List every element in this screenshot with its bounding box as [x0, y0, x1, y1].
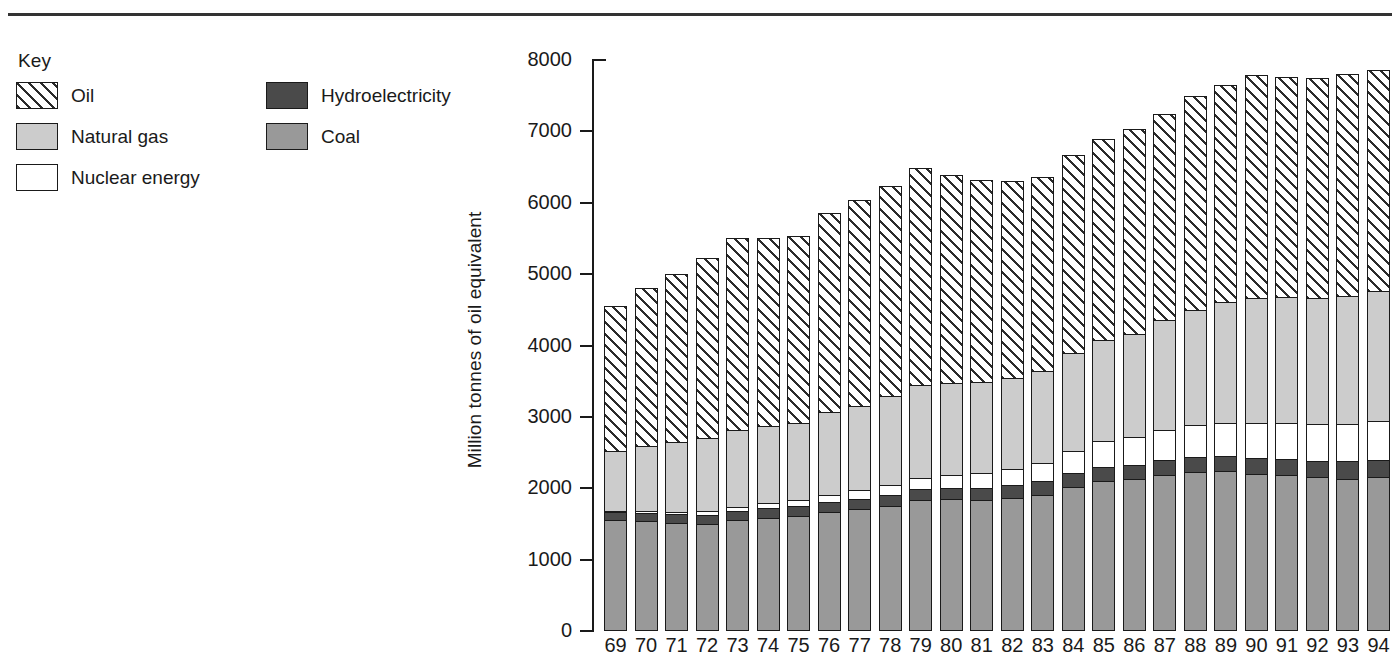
bar-segment-oil: [971, 181, 992, 382]
bar-segment-gas: [971, 382, 992, 473]
bar-segment-gas: [636, 446, 657, 511]
bar-segment-nuclear: [1002, 469, 1023, 485]
bar-segment-nuclear: [819, 495, 840, 502]
bar-segment-gas: [1124, 334, 1145, 436]
bar-segment-hydro: [1246, 458, 1267, 474]
bar-94[interactable]: [1367, 70, 1390, 631]
bar-segment-gas: [880, 396, 901, 485]
bar-89[interactable]: [1214, 85, 1237, 631]
bar-76[interactable]: [818, 213, 841, 631]
bar-segment-oil: [697, 259, 718, 438]
bar-segment-coal: [636, 521, 657, 630]
bar-segment-nuclear: [941, 475, 962, 487]
bar-90[interactable]: [1245, 75, 1268, 631]
bar-segment-gas: [666, 442, 687, 512]
bar-78[interactable]: [879, 186, 902, 631]
bar-segment-oil: [819, 214, 840, 412]
bar-segment-nuclear: [1307, 424, 1328, 460]
bar-segment-nuclear: [910, 478, 931, 489]
bar-segment-coal: [971, 500, 992, 630]
bar-segment-coal: [1063, 487, 1084, 630]
bar-83[interactable]: [1031, 177, 1054, 631]
bar-segment-coal: [1154, 475, 1175, 630]
bar-segment-coal: [1215, 471, 1236, 630]
bar-80[interactable]: [940, 175, 963, 631]
bar-segment-coal: [1002, 498, 1023, 630]
bar-segment-hydro: [1368, 460, 1389, 477]
bar-segment-coal: [849, 509, 870, 630]
bar-segment-oil: [605, 307, 626, 451]
bar-segment-hydro: [1002, 485, 1023, 498]
bar-segment-nuclear: [880, 485, 901, 495]
bar-segment-gas: [1215, 302, 1236, 423]
bar-82[interactable]: [1001, 181, 1024, 631]
bar-93[interactable]: [1336, 74, 1359, 631]
bar-segment-oil: [1185, 97, 1206, 310]
bar-segment-coal: [1185, 472, 1206, 630]
bar-segment-hydro: [697, 515, 718, 524]
bar-segment-coal: [788, 516, 809, 630]
bar-group: 6970717273747576777879808182838485868788…: [0, 0, 1400, 664]
bar-segment-gas: [727, 430, 748, 507]
bar-segment-hydro: [880, 495, 901, 506]
bar-segment-hydro: [910, 489, 931, 500]
bar-87[interactable]: [1153, 114, 1176, 631]
bar-segment-gas: [1002, 378, 1023, 469]
bar-segment-coal: [1093, 481, 1114, 630]
bar-segment-coal: [666, 523, 687, 630]
bar-segment-gas: [941, 383, 962, 475]
bar-segment-gas: [1307, 298, 1328, 425]
bar-69[interactable]: [604, 306, 627, 631]
bar-91[interactable]: [1275, 77, 1298, 631]
bar-74[interactable]: [757, 238, 780, 631]
bar-segment-coal: [1307, 477, 1328, 630]
bar-segment-oil: [880, 187, 901, 397]
bar-segment-coal: [758, 518, 779, 630]
bar-segment-gas: [910, 385, 931, 477]
bar-segment-hydro: [941, 488, 962, 500]
bar-segment-nuclear: [1215, 423, 1236, 456]
bar-segment-coal: [1124, 479, 1145, 630]
bar-segment-nuclear: [1185, 425, 1206, 457]
bar-segment-nuclear: [1093, 441, 1114, 468]
bar-72[interactable]: [696, 258, 719, 631]
bar-segment-oil: [1215, 86, 1236, 301]
bar-segment-oil: [1246, 76, 1267, 297]
bar-77[interactable]: [848, 200, 871, 631]
stacked-bar-chart: Million tonnes of oil equivalent 0100020…: [0, 0, 1400, 664]
bar-segment-hydro: [1337, 461, 1358, 478]
bar-segment-coal: [819, 512, 840, 630]
bar-segment-gas: [788, 423, 809, 500]
bar-segment-gas: [1032, 371, 1053, 463]
bar-segment-gas: [605, 451, 626, 511]
bar-segment-nuclear: [1032, 463, 1053, 482]
bar-segment-oil: [849, 201, 870, 406]
bar-84[interactable]: [1062, 155, 1085, 631]
bar-segment-coal: [1337, 479, 1358, 630]
bar-segment-coal: [880, 506, 901, 630]
bar-71[interactable]: [665, 274, 688, 631]
bar-79[interactable]: [909, 168, 932, 631]
bar-segment-oil: [941, 176, 962, 383]
bar-85[interactable]: [1092, 139, 1115, 631]
bar-segment-coal: [1368, 477, 1389, 630]
bar-segment-gas: [758, 426, 779, 503]
bar-81[interactable]: [970, 180, 993, 631]
bar-segment-nuclear: [1337, 424, 1358, 462]
bar-segment-hydro: [1063, 473, 1084, 487]
bar-segment-nuclear: [1063, 451, 1084, 474]
bar-segment-gas: [1337, 296, 1358, 424]
bar-86[interactable]: [1123, 129, 1146, 631]
bar-75[interactable]: [787, 236, 810, 631]
bar-92[interactable]: [1306, 78, 1329, 631]
bar-segment-gas: [849, 406, 870, 490]
bar-segment-hydro: [1185, 457, 1206, 472]
bar-segment-oil: [727, 239, 748, 429]
bar-segment-nuclear: [1124, 437, 1145, 465]
bar-70[interactable]: [635, 288, 658, 631]
bar-segment-nuclear: [1368, 421, 1389, 459]
bar-segment-hydro: [605, 512, 626, 520]
bar-73[interactable]: [726, 238, 749, 631]
bar-segment-oil: [1124, 130, 1145, 334]
bar-88[interactable]: [1184, 96, 1207, 631]
